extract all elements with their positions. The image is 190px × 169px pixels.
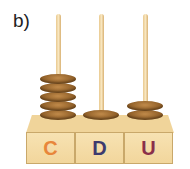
block-d: D <box>75 132 124 164</box>
bead-ring <box>40 110 76 120</box>
bead-ring <box>127 101 163 111</box>
bead-ring <box>83 110 119 120</box>
letter-d: D <box>92 137 106 160</box>
exercise-label: b) <box>13 10 30 32</box>
rod-d <box>99 14 104 122</box>
letter-u: U <box>141 137 155 160</box>
block-u: U <box>124 132 173 164</box>
bead-ring <box>40 101 76 111</box>
bead-ring <box>127 110 163 120</box>
block-c: C <box>26 132 75 164</box>
bead-ring <box>40 92 76 102</box>
letter-c: C <box>43 137 57 160</box>
bead-ring <box>40 74 76 84</box>
bead-ring <box>40 83 76 93</box>
